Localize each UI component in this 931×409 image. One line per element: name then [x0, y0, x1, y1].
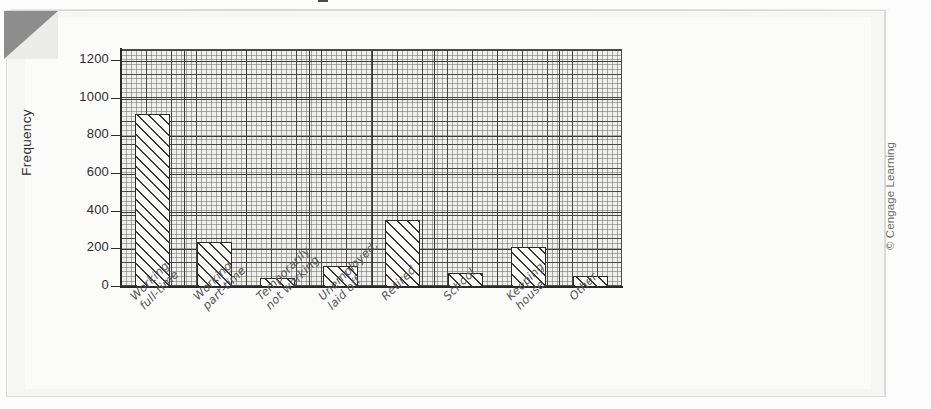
- y-axis-tick-mark: [111, 98, 121, 99]
- y-axis-tick-mark: [111, 286, 121, 287]
- y-axis-tick-mark: [111, 173, 121, 174]
- gridline-vertical: [184, 50, 185, 287]
- gridline-vertical: [246, 50, 247, 287]
- y-axis-tick-label: 600: [57, 164, 109, 179]
- gridline-vertical: [497, 50, 498, 287]
- y-axis-tick-mark: [111, 248, 121, 249]
- copyright-credit: © Cengage Learning: [884, 142, 896, 250]
- y-axis-tick-mark: [111, 135, 121, 136]
- gridline-horizontal: [121, 61, 622, 62]
- gridline-vertical: [434, 50, 435, 287]
- bar-chart: 020040060080010001200 Frequency Working …: [0, 0, 931, 409]
- y-axis-line: [120, 48, 122, 287]
- y-axis-tick-label: 200: [57, 239, 109, 254]
- y-axis-tick-label: 0: [57, 277, 109, 292]
- gridline-horizontal: [121, 212, 622, 213]
- y-axis-tick-label: 1200: [57, 51, 109, 66]
- y-axis-tick-labels: 020040060080010001200: [47, 0, 109, 409]
- y-axis-tick-mark: [111, 60, 121, 61]
- gridline-horizontal: [121, 99, 622, 100]
- gridline-vertical: [559, 50, 560, 287]
- y-axis-title: Frequency: [19, 73, 34, 213]
- y-axis-tick-label: 1000: [57, 89, 109, 104]
- y-axis-tick-label: 400: [57, 202, 109, 217]
- gridline-horizontal: [121, 174, 622, 175]
- y-axis-tick-mark: [111, 211, 121, 212]
- gridline-horizontal: [121, 136, 622, 137]
- y-axis-tick-label: 800: [57, 126, 109, 141]
- scanned-page: 020040060080010001200 Frequency Working …: [0, 0, 931, 409]
